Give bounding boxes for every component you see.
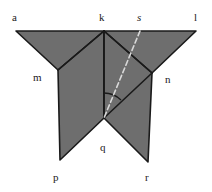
vertex-label-m: m	[33, 72, 42, 83]
vertex-label-a: a	[12, 12, 17, 23]
vertex-label-k: k	[99, 12, 105, 23]
diagram-canvas	[0, 0, 212, 192]
vertex-label-q: q	[100, 142, 106, 153]
vertex-label-s: s	[137, 12, 141, 23]
geometric-figure: a k s l m n q p r	[0, 0, 212, 192]
vertex-label-r: r	[145, 172, 149, 183]
vertex-label-p: p	[53, 172, 59, 183]
vertex-label-n: n	[165, 74, 171, 85]
vertex-label-l: l	[194, 12, 197, 23]
